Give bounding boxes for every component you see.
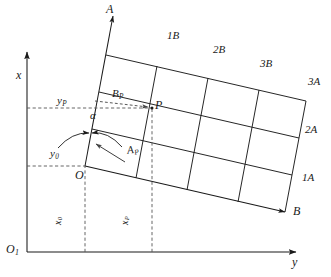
construction-lines bbox=[27, 108, 152, 252]
xp-letter: x bbox=[119, 221, 130, 225]
grid-line-b1 bbox=[136, 66, 157, 178]
bp-subscript: P bbox=[119, 93, 124, 101]
a-axis-line bbox=[85, 16, 113, 166]
grid-origin-label: O bbox=[75, 169, 84, 181]
alpha-arc-left bbox=[58, 133, 89, 148]
ap-measure-arrow bbox=[96, 144, 125, 162]
grid-label-right-3a: 3A bbox=[308, 76, 320, 87]
reference-origin-letter: O bbox=[6, 242, 15, 256]
reference-axes bbox=[27, 52, 296, 252]
diagram-canvas: x y O1 A B O α P yP y0 x0 xP BP AP 1B2B3… bbox=[0, 0, 331, 277]
yp-label: yP bbox=[57, 95, 67, 108]
grid-label-top-1b: 1B bbox=[167, 30, 179, 41]
grid-line-b2 bbox=[187, 78, 208, 190]
xp-subscript: P bbox=[123, 216, 130, 220]
x-axis-label: x bbox=[16, 69, 21, 81]
diagram-svg bbox=[0, 0, 331, 277]
b-axis-label: B bbox=[293, 205, 300, 217]
grid-label-right-2a: 2A bbox=[305, 124, 317, 135]
b-axis-line bbox=[85, 166, 285, 212]
point-p-label: P bbox=[155, 99, 162, 111]
x0-label: x0 bbox=[53, 217, 64, 225]
grid-label-top-2b: 2B bbox=[213, 44, 225, 55]
reference-origin-label: O1 bbox=[6, 243, 19, 257]
yp-subscript: P bbox=[62, 100, 67, 108]
y-axis-label: y bbox=[292, 256, 297, 268]
grid-line-a3 bbox=[106, 55, 306, 101]
alpha-angle-label: α bbox=[90, 110, 96, 121]
bp-label: BP bbox=[112, 88, 123, 101]
grid-line-b4-right-edge bbox=[285, 101, 306, 212]
ab-grid bbox=[85, 16, 306, 212]
x0-letter: x bbox=[52, 221, 63, 225]
xp-label: xP bbox=[120, 216, 131, 225]
y0-label: y0 bbox=[50, 148, 59, 161]
bp-letter: B bbox=[112, 87, 119, 99]
y0-subscript: 0 bbox=[55, 153, 59, 161]
grid-line-b3 bbox=[238, 90, 259, 202]
point-p-marker bbox=[151, 107, 154, 110]
grid-label-top-3b: 3B bbox=[260, 58, 272, 69]
grid-line-a2 bbox=[99, 92, 299, 138]
ap-arrow-line bbox=[96, 144, 125, 162]
grid-label-right-1a: 1A bbox=[302, 172, 314, 183]
a-axis-label: A bbox=[106, 3, 113, 15]
ap-subscript: P bbox=[133, 148, 139, 157]
grid-line-a1 bbox=[92, 129, 292, 175]
reference-origin-subscript: 1 bbox=[15, 248, 19, 257]
x0-subscript: 0 bbox=[56, 217, 63, 221]
ap-label: AP bbox=[126, 143, 139, 157]
